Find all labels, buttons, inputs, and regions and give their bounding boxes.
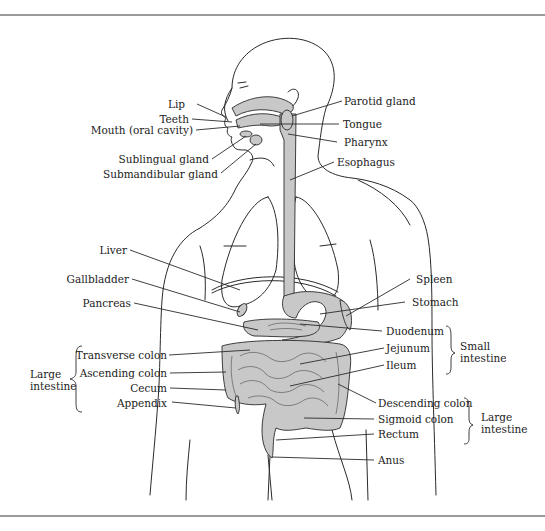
leader-ascending-colon [170,372,226,373]
label-anus: Anus [378,454,405,466]
label-descending-colon: Descending colon [378,397,472,409]
label-ileum: Ileum [386,359,416,371]
leader-teeth [192,119,232,122]
appendix [235,396,239,414]
label-stomach: Stomach [412,296,459,308]
leader-appendix [172,402,236,408]
label-sublingual-gland: Sublingual gland [119,153,209,165]
submandibular-gland [250,135,262,145]
label-ascending-colon: Ascending colon [80,367,167,379]
label-appendix: Appendix [117,397,167,409]
label-rectum: Rectum [378,428,419,440]
label-lip: Lip [168,98,185,110]
diaphragm [212,277,338,292]
label-liver: Liver [100,244,128,256]
leader-liver [130,250,240,290]
leader-sublingual [212,136,246,159]
leader-parotid [292,101,342,116]
label-cecum: Cecum [130,382,167,394]
group-small-intestine: Small intestine [460,340,507,364]
leader-anus [272,457,374,460]
label-jejunum: Jejunum [386,342,430,354]
left-lung [222,197,278,307]
label-submandibular-gland: Submandibular gland [103,168,218,180]
leader-submandibular [221,144,256,173]
parotid-gland [281,110,293,130]
label-gallbladder: Gallbladder [67,273,129,285]
label-sigmoid-colon: Sigmoid colon [378,413,454,425]
label-tongue: Tongue [343,118,382,130]
label-pharynx: Pharynx [344,136,388,148]
face-profile [150,88,253,495]
group-large-intestine-right: Large intestine [481,411,528,435]
brace-small-intestine [446,326,455,374]
pancreas-duodenum [243,319,319,337]
pharynx-esophagus [280,114,296,300]
digestive-system-illustration [0,0,545,531]
leader-cecum [170,388,226,390]
label-duodenum: Duodenum [386,325,444,337]
label-transverse-colon: Transverse colon [76,349,167,361]
leader-rectum [276,434,374,440]
label-mouth: Mouth (oral cavity) [91,124,193,136]
label-parotid-gland: Parotid gland [344,95,416,107]
label-spleen: Spleen [416,273,452,285]
label-esophagus: Esophagus [337,156,395,168]
tongue [236,114,284,128]
right-lung [293,197,339,300]
group-large-intestine-left: Large intestine [30,368,77,392]
leader-mouth [196,126,240,130]
label-pancreas: Pancreas [83,297,131,309]
